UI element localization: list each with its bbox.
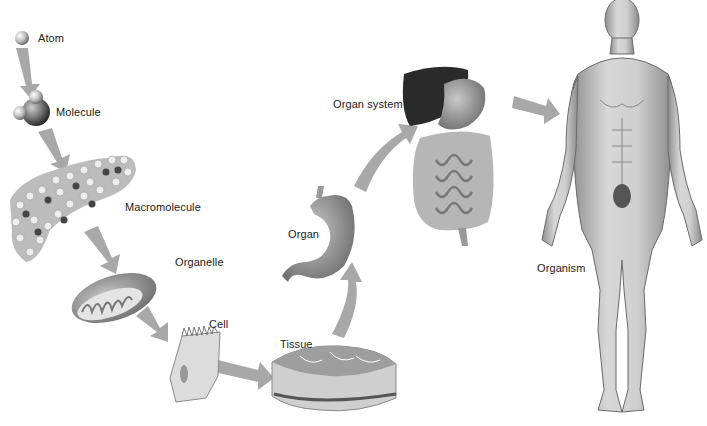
- label-organ: Organ: [288, 228, 319, 240]
- arrow-tissue-to-organ: [332, 262, 362, 338]
- label-molecule: Molecule: [56, 106, 101, 118]
- arrow-cell-to-tissue: [214, 360, 274, 390]
- macromolecule-icon: [10, 156, 136, 262]
- organism-pelvic-shading: [613, 184, 631, 208]
- label-organelle: Organelle: [175, 256, 224, 268]
- tissue-icon: [272, 346, 396, 411]
- organ-system-icon: [403, 67, 494, 246]
- label-organ-system: Organ system: [333, 98, 403, 110]
- arrow-macromolecule-to-organelle: [84, 226, 120, 274]
- label-tissue: Tissue: [280, 338, 313, 350]
- label-organism: Organism: [537, 262, 585, 274]
- arrow-molecule-to-macromolecule: [38, 128, 70, 172]
- biological-organization-diagram: Atom Molecule Macromolecule Organelle Ce…: [0, 0, 707, 426]
- arrow-organelle-to-cell: [136, 306, 168, 342]
- arrow-organ-to-organsystem: [354, 124, 418, 192]
- atom-icon: [15, 31, 29, 45]
- molecule-icon: [13, 90, 50, 126]
- cell-icon: [170, 326, 220, 402]
- diagram-illustrations: [0, 0, 707, 426]
- label-macromolecule: Macromolecule: [125, 201, 201, 213]
- label-cell: Cell: [209, 318, 228, 330]
- arrow-organsystem-to-organism: [512, 96, 560, 124]
- label-atom: Atom: [38, 32, 64, 44]
